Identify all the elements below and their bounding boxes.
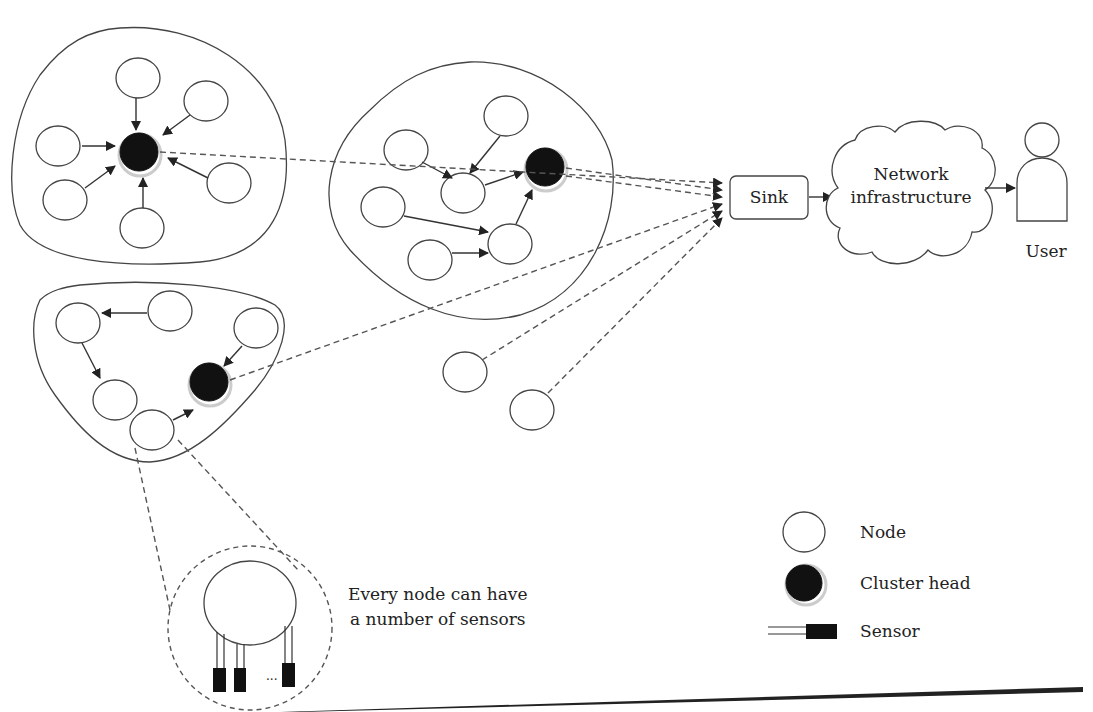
node: [207, 163, 251, 203]
node: [116, 58, 160, 98]
sensor-callout: ... Every node can have a number of sens…: [135, 440, 528, 710]
node: [441, 173, 485, 213]
network-diagram: Sink Network infrastructure User ...: [0, 0, 1093, 712]
cluster-2: [329, 62, 613, 319]
node: [361, 187, 405, 227]
callout-line1: Every node can have: [348, 584, 528, 604]
node: [93, 380, 137, 420]
node: [43, 180, 87, 220]
sink-label: Sink: [750, 187, 789, 207]
bottom-rule: [280, 687, 1083, 712]
sensor-ellipsis: ...: [266, 669, 277, 683]
sensor-icon: [234, 644, 246, 692]
node: [488, 224, 532, 264]
node: [384, 130, 428, 170]
node: [120, 208, 164, 248]
enlarged-node: [204, 561, 296, 645]
user-label: User: [1025, 241, 1067, 261]
cluster-head: [120, 133, 158, 171]
cluster-head: [190, 363, 228, 401]
node: [36, 126, 80, 166]
sensor-icon: [768, 624, 837, 639]
node: [148, 291, 192, 331]
node: [484, 96, 528, 136]
standalone-node: [443, 352, 487, 392]
cloud-label-line1: Network: [874, 164, 950, 184]
node: [56, 303, 100, 343]
sink: Sink: [730, 176, 808, 219]
standalone-node: [510, 390, 554, 430]
cluster-1: [12, 27, 287, 264]
node: [234, 308, 278, 348]
legend-sensor-label: Sensor: [860, 621, 921, 641]
network-infrastructure-cloud: Network infrastructure: [826, 121, 995, 264]
node-icon: [783, 512, 825, 552]
cluster-3: [34, 282, 285, 462]
user-icon: User: [1017, 123, 1067, 261]
node: [184, 81, 228, 121]
callout-line2: a number of sensors: [350, 609, 526, 629]
node: [408, 240, 452, 280]
legend-node-label: Node: [860, 522, 906, 542]
sensor-icon: [282, 626, 295, 687]
cluster-head: [526, 148, 564, 186]
legend-cluster-head-label: Cluster head: [860, 573, 971, 593]
cloud-label-line2: infrastructure: [850, 187, 971, 207]
node: [130, 410, 174, 450]
sensor-icon: [213, 632, 226, 692]
cluster-head-icon: [786, 565, 822, 601]
legend: Node Cluster head Sensor: [768, 512, 971, 641]
